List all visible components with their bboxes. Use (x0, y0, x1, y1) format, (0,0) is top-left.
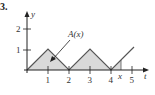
tick-label-y1: 1 (16, 45, 21, 55)
y-axis-label: y (30, 9, 35, 19)
x-marker-label: x (117, 71, 122, 81)
area-label: A(x) (67, 29, 84, 39)
area-function-graph: 3. 1 2 3 4 5 1 2 y t x A(x) (0, 0, 155, 95)
tick-label-x2: 2 (67, 75, 72, 85)
tick-label-x3: 3 (88, 75, 93, 85)
tick-label-x4: 4 (109, 75, 114, 85)
y-axis-arrow-icon (25, 11, 30, 17)
tick-label-y2: 2 (16, 24, 21, 34)
t-axis-label: t (144, 71, 147, 81)
shaded-area (27, 49, 121, 70)
area-pointer-line (53, 40, 70, 59)
tick-label-x5: 5 (130, 75, 135, 85)
tick-label-x1: 1 (46, 75, 51, 85)
problem-number: 3. (0, 1, 8, 12)
